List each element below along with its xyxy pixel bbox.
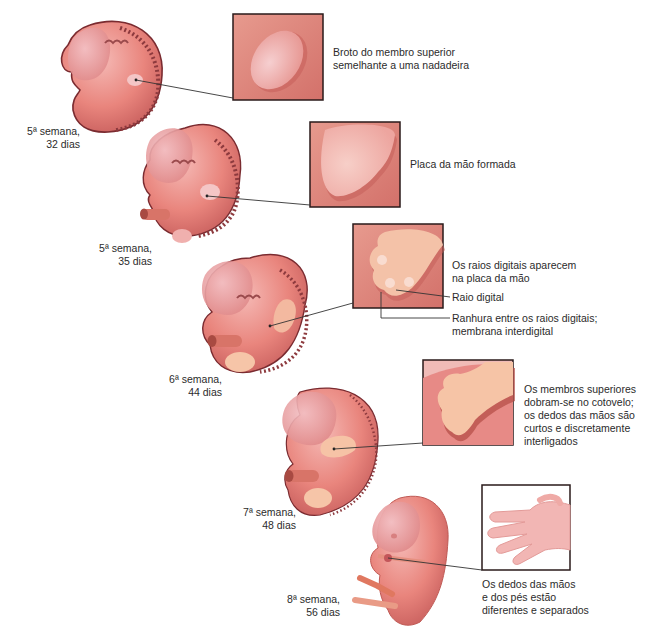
detail-box-35-days [310, 122, 400, 207]
description-line: Os membros superiores [524, 383, 636, 396]
age-days: 35 dias [92, 255, 152, 268]
age-days: 48 dias [236, 519, 296, 532]
description-line: e dos pés estão [482, 591, 589, 604]
embryo-35-days [140, 125, 241, 243]
age-days: 32 dias [20, 138, 80, 151]
age-week: 5ª semana, [92, 242, 152, 255]
age-week: 5ª semana, [20, 125, 80, 138]
age-week: 8ª semana, [280, 593, 340, 606]
age-days: 56 dias [280, 606, 340, 619]
description-56-days: Os dedos das mãos e dos pés estão difere… [482, 578, 589, 617]
description-line: na placa da mão [452, 272, 576, 285]
description-line: dobram-se no cotovelo; [524, 396, 636, 409]
age-days: 44 dias [162, 386, 222, 399]
detail-box-56-days [482, 485, 570, 570]
callout-interdigital-groove: Ranhura entre os raios digitais; membran… [452, 312, 597, 338]
detail-box-48-days [423, 360, 515, 445]
description-line: Placa da mão formada [410, 158, 516, 171]
description-line: Os raios digitais aparecem [452, 259, 576, 272]
callout-line: membrana interdigital [452, 325, 597, 338]
detail-box-32-days [233, 14, 323, 103]
description-44-days: Os raios digitais aparecem na placa da m… [452, 259, 576, 285]
age-week: 6ª semana, [162, 373, 222, 386]
limb-development-figure: 5ª semana, 32 dias 5ª semana, 35 dias 6ª… [0, 0, 647, 635]
description-line: diferentes e separados [482, 604, 589, 617]
age-label-48-days: 7ª semana, 48 dias [236, 506, 296, 532]
embryo-56-days [355, 496, 448, 625]
description-32-days: Broto do membro superior semelhante a um… [333, 46, 469, 72]
description-48-days: Os membros superiores dobram-se no cotov… [524, 383, 636, 448]
description-line: interligados [524, 435, 636, 448]
description-line: Os dedos das mãos [482, 578, 589, 591]
description-35-days: Placa da mão formada [410, 158, 516, 171]
age-label-32-days: 5ª semana, 32 dias [20, 125, 80, 151]
detail-box-44-days [353, 224, 445, 308]
age-label-56-days: 8ª semana, 56 dias [280, 593, 340, 619]
callout-line: Ranhura entre os raios digitais; [452, 312, 597, 325]
embryo-32-days [62, 21, 163, 132]
embryo-48-days [282, 388, 378, 515]
callout-digital-ray: Raio digital [452, 291, 504, 304]
description-line: curtos e discretamente [524, 422, 636, 435]
age-label-44-days: 6ª semana, 44 dias [162, 373, 222, 399]
age-week: 7ª semana, [236, 506, 296, 519]
description-line: Broto do membro superior [333, 46, 469, 59]
description-line: os dedos das mãos são [524, 409, 636, 422]
age-label-35-days: 5ª semana, 35 dias [92, 242, 152, 268]
embryo-44-days [202, 255, 307, 373]
description-line: semelhante a uma nadadeira [333, 59, 469, 72]
callout-line: Raio digital [452, 291, 504, 304]
